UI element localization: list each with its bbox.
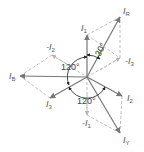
angle-120-lower: 120° (77, 96, 96, 106)
phasor-ib (20, 76, 87, 77)
solid-phasors (20, 17, 122, 133)
label-i2: I2 (127, 93, 134, 104)
label-neg-i3: -I3 (125, 56, 135, 67)
angle-labels: 30° 120° 120° (61, 41, 108, 106)
label-i3: I3 (46, 99, 53, 110)
phasor-neg-i3 (100, 58, 120, 70)
phasor-i3 (50, 77, 87, 98)
construction-lines (20, 17, 122, 133)
label-i1: I1 (81, 23, 88, 34)
angle-120-upper: 120° (61, 62, 80, 72)
label-neg-i1: -I1 (82, 118, 92, 129)
label-ir: IR (123, 6, 131, 17)
label-ib: IB (9, 71, 16, 82)
phasor-diagram: IR I1 IB I3 I2 IY -I3 -I2 -I1 30° 120° 1… (0, 0, 144, 152)
label-iy: IY (123, 135, 130, 146)
label-neg-i2: -I2 (46, 42, 56, 53)
